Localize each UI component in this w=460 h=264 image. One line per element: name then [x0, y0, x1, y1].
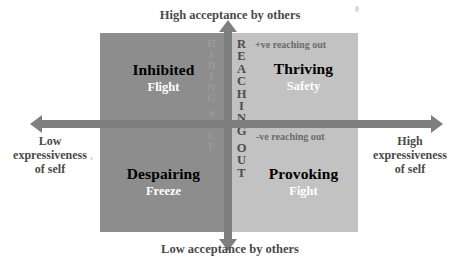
reaching-out-letter: E — [237, 50, 245, 62]
quadrant-despairing-text: Despairing Freeze — [127, 166, 200, 199]
quadrant-inhibited-text: Inhibited Flight — [132, 62, 194, 95]
axis-label-right: Highexpressivenessof self — [362, 134, 458, 176]
quadrant-provoking-title: Provoking — [269, 166, 339, 182]
axis-label-line: expressiveness — [362, 148, 458, 162]
hiding-self-letter: G — [207, 92, 216, 103]
note-positive-reaching-out: +ve reaching out — [255, 39, 326, 50]
reaching-out-letter: U — [237, 154, 246, 166]
quadrant-thriving-text: Thriving Safety — [274, 61, 333, 94]
axis-label-bottom: Low acceptance by others — [128, 242, 332, 257]
scan-speck — [90, 157, 93, 160]
reaching-out-letter: T — [237, 167, 245, 179]
hiding-self-letter: I — [209, 71, 213, 82]
spine-reaching-out: REACHINGOUT — [233, 38, 250, 179]
note-negative-reaching-out: -ve reaching out — [256, 131, 325, 142]
axis-label-line: of self — [2, 162, 98, 176]
spine-hiding-self: HIDINGSELF — [203, 38, 220, 152]
axis-label-line: Low — [2, 134, 98, 148]
reaching-out-letter: C — [237, 75, 246, 87]
quadrant-provoking-subtitle: Fight — [289, 184, 317, 198]
axis-label-line: expressiveness — [2, 148, 98, 162]
axis-label-line: of self — [362, 162, 458, 176]
hiding-self-letter: D — [208, 60, 216, 71]
quadrant-provoking-text: Provoking Fight — [269, 166, 339, 199]
quadrant-inhibited-subtitle: Flight — [148, 80, 180, 94]
scan-speck — [355, 6, 359, 12]
quadrant-thriving-title: Thriving — [274, 61, 333, 77]
axis-label-line: High — [362, 134, 458, 148]
axis-label-left: Lowexpressivenessof self — [2, 134, 98, 176]
arrow-left-icon — [30, 115, 42, 133]
vertical-axis-line — [224, 30, 232, 241]
hiding-self-letter: F — [208, 141, 215, 152]
axis-label-top: High acceptance by others — [128, 8, 332, 23]
horizontal-axis-line — [41, 120, 433, 128]
quadrant-inhibited-title: Inhibited — [132, 62, 194, 78]
quadrant-despairing-title: Despairing — [127, 166, 200, 182]
quadrant-despairing-subtitle: Freeze — [146, 184, 181, 198]
quadrant-thriving-subtitle: Safety — [287, 79, 320, 93]
arrow-right-icon — [431, 115, 443, 133]
diagram-canvas: Inhibited Flight Thriving Safety Despair… — [0, 0, 460, 264]
